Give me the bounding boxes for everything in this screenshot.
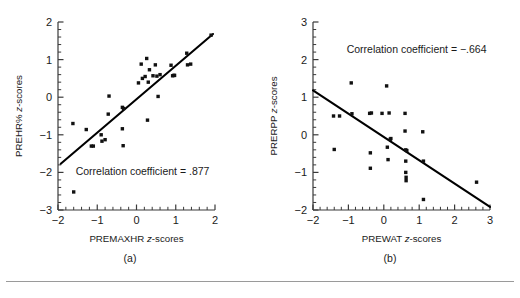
- plot-group: −2−1012−3−2−1012Correlation coefficient …: [13, 16, 218, 244]
- y-axis-tick-label: 1: [46, 54, 52, 66]
- data-point-marker: [370, 111, 373, 114]
- panel-b-caption: (b): [260, 252, 520, 264]
- data-point-marker: [421, 130, 424, 133]
- x-axis-title-prefix: PREWAT: [362, 233, 405, 244]
- correlation-annotation: Correlation coefficient = −.664: [347, 43, 487, 55]
- data-point-marker: [475, 180, 478, 183]
- y-axis-tick-label: −2: [39, 166, 52, 178]
- figure-scatterplot-pair: −2−1012−3−2−1012Correlation coefficient …: [0, 0, 520, 298]
- data-point-marker: [369, 167, 372, 170]
- y-axis-title: PRERPP z-scores: [268, 76, 279, 155]
- data-point-marker: [403, 112, 406, 115]
- y-axis-tick-label: −1: [294, 166, 307, 178]
- data-point-marker: [107, 112, 110, 115]
- x-axis-title-suffix: -scores: [152, 233, 184, 244]
- data-point-marker: [72, 190, 75, 193]
- x-axis-title-prefix: PREMAXHR: [89, 233, 147, 244]
- figure-bottom-rule: [6, 281, 514, 282]
- y-axis-tick-label: 1: [301, 91, 307, 103]
- data-point-marker: [403, 129, 406, 132]
- data-point-marker: [154, 63, 157, 66]
- y-axis-tick-label: 0: [301, 129, 307, 141]
- data-point-marker: [99, 133, 102, 136]
- data-point-marker: [332, 114, 335, 117]
- data-point-marker: [155, 74, 158, 77]
- y-axis-tick-label: −2: [294, 204, 307, 216]
- data-point-marker: [143, 75, 146, 78]
- data-point-marker: [389, 137, 392, 140]
- panel-a-plot-svg: −2−1012−3−2−1012Correlation coefficient …: [0, 0, 260, 270]
- regression-line: [61, 34, 213, 164]
- data-point-marker: [145, 57, 148, 60]
- data-point-marker: [156, 95, 159, 98]
- data-point-marker: [92, 144, 95, 147]
- data-point-marker: [121, 144, 124, 147]
- y-axis-tick-label: −1: [39, 129, 52, 141]
- data-point-marker: [71, 122, 74, 125]
- data-point-marker: [147, 80, 150, 83]
- panel-a-scatter: −2−1012−3−2−1012Correlation coefficient …: [0, 0, 260, 270]
- data-point-marker: [140, 62, 143, 65]
- x-axis-tick-label: 3: [487, 214, 493, 226]
- plot-group: −2−10123−2−10123Correlation coefficient …: [268, 16, 493, 244]
- data-point-marker: [146, 118, 149, 121]
- y-axis-tick-label: 2: [301, 54, 307, 66]
- data-point-marker: [148, 68, 151, 71]
- x-axis-tick-label: 2: [212, 214, 218, 226]
- y-axis-title: PREHR% z-scores: [13, 75, 24, 157]
- data-point-marker: [387, 111, 390, 114]
- x-axis-tick-label: −2: [52, 214, 65, 226]
- data-point-marker: [404, 171, 407, 174]
- data-point-marker: [107, 94, 110, 97]
- data-point-marker: [122, 107, 125, 110]
- x-axis-tick-label: −1: [91, 214, 104, 226]
- y-axis-title-suffix: -scores: [13, 75, 24, 107]
- panel-b-plot-svg: −2−10123−2−10123Correlation coefficient …: [260, 0, 520, 270]
- y-axis-title-prefix: PRERPP: [268, 113, 279, 155]
- data-point-marker: [380, 112, 383, 115]
- data-point-marker: [151, 74, 154, 77]
- y-axis-title-prefix: PREHR%: [13, 112, 24, 157]
- data-point-marker: [185, 52, 188, 55]
- y-axis-tick-label: 0: [46, 91, 52, 103]
- panel-b-scatter: −2−10123−2−10123Correlation coefficient …: [260, 0, 520, 270]
- y-axis-tick-label: −3: [39, 204, 52, 216]
- x-axis-tick-label: −2: [307, 214, 320, 226]
- x-axis-title: PREWAT z-scores: [362, 233, 442, 244]
- data-point-marker: [186, 63, 189, 66]
- panel-a-caption: (a): [0, 252, 260, 264]
- data-point-marker: [103, 138, 106, 141]
- data-point-marker: [369, 151, 372, 154]
- data-point-marker: [189, 62, 192, 65]
- data-point-marker: [385, 84, 388, 87]
- data-point-marker: [209, 33, 212, 36]
- x-axis-tick-label: 1: [416, 214, 422, 226]
- y-axis-tick-label: 3: [301, 16, 307, 28]
- data-point-marker: [333, 148, 336, 151]
- x-axis-tick-label: −1: [342, 214, 355, 226]
- data-point-marker: [137, 81, 140, 84]
- data-point-marker: [121, 127, 124, 130]
- data-point-marker: [404, 176, 407, 179]
- data-point-marker: [404, 179, 407, 182]
- regression-line: [313, 90, 490, 207]
- x-axis-tick-label: 1: [173, 214, 179, 226]
- data-point-marker: [386, 158, 389, 161]
- data-point-marker: [350, 81, 353, 84]
- data-point-marker: [158, 73, 161, 76]
- x-axis-tick-label: 0: [133, 214, 139, 226]
- data-point-marker: [100, 139, 103, 142]
- data-point-marker: [404, 159, 407, 162]
- data-point-marker: [386, 146, 389, 149]
- data-point-marker: [405, 149, 408, 152]
- y-axis-title-suffix: -scores: [268, 76, 279, 108]
- data-point-marker: [169, 64, 172, 67]
- data-point-marker: [422, 198, 425, 201]
- data-point-marker: [350, 112, 353, 115]
- x-axis-tick-label: 0: [381, 214, 387, 226]
- correlation-annotation: Correlation coefficient = .877: [76, 165, 210, 177]
- x-axis-tick-label: 2: [452, 214, 458, 226]
- data-point-marker: [338, 114, 341, 117]
- y-axis-tick-label: 2: [46, 16, 52, 28]
- data-point-marker: [422, 159, 425, 162]
